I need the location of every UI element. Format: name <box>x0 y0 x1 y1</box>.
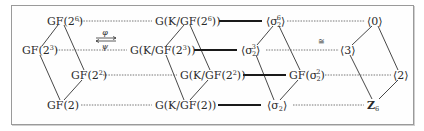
field-gf-2: GF(2) <box>47 99 79 112</box>
frobenius-lattice-edges <box>256 26 300 100</box>
frobenius-sigma-2-3: ⟨σ32⟩ <box>241 43 260 58</box>
frobenius-sigma-2-6: ⟨σ62⟩ <box>266 14 285 29</box>
cyclic-group-z6: Z6 <box>367 99 379 113</box>
frobenius-sigma-2: ⟨σ2⟩ <box>267 99 287 113</box>
isomorphism-symbol: ≅ <box>318 37 325 46</box>
phi-psi-arrows: φ ψ <box>96 28 116 51</box>
cyclic-subgroup-0: ⟨0⟩ <box>367 15 383 28</box>
phi-label: φ <box>102 28 108 37</box>
cyclic-lattice-edges <box>350 26 398 99</box>
field-lattice-edges <box>40 25 84 100</box>
galois-group-gf-2-3: G(K/GF(23)) <box>130 44 195 57</box>
cyclic-subgroup-2: ⟨2⟩ <box>393 69 409 82</box>
field-gf-2-6: GF(26) <box>47 15 83 28</box>
group-to-frobenius-bold-lines <box>194 21 286 105</box>
field-gf-2-2: GF(22) <box>71 69 107 82</box>
lattice-diagram: φ ψ ≅ GF(26) GF(23) GF(22) GF(2) G(K/GF(… <box>0 0 424 131</box>
frobenius-to-cyclic-dotted-lines <box>266 21 391 105</box>
frobenius-gf-sigma-2-2: GF(σ22) <box>289 68 325 83</box>
galois-group-gf-2: G(K/GF(2)) <box>155 99 216 112</box>
cyclic-subgroup-3: ⟨3⟩ <box>340 44 356 57</box>
field-gf-2-3: GF(23) <box>22 44 58 57</box>
field-to-group-dotted-lines <box>56 21 177 105</box>
galois-group-gf-2-2: G(K/GF(22)) <box>180 69 245 82</box>
galois-group-gf-2-6: G(K/GF(26)) <box>155 15 220 28</box>
galois-lattice-edges <box>166 25 210 100</box>
psi-label: ψ <box>102 42 109 51</box>
